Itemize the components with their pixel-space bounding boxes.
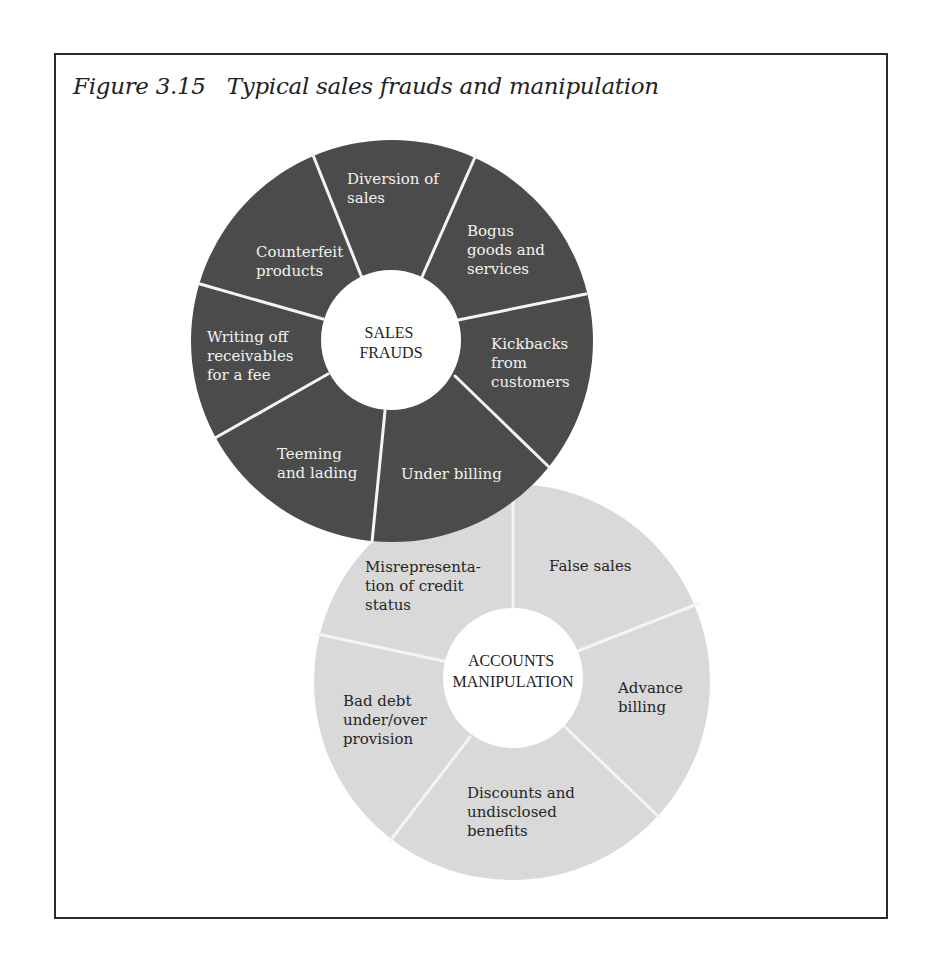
label-line: billing	[618, 698, 666, 716]
label-line: Teeming	[277, 445, 342, 463]
label-line: status	[365, 596, 411, 614]
label-line: Kickbacks	[491, 335, 568, 353]
accounts-manipulation-wheel: False sales Advance billing Discounts an…	[314, 484, 710, 880]
label-line: products	[256, 262, 323, 280]
hub-line: ACCOUNTS	[468, 652, 554, 669]
label-line: customers	[491, 373, 570, 391]
label-line: Discounts and	[467, 784, 575, 802]
label-line: Bad debt	[343, 692, 411, 710]
label-line: Under billing	[401, 465, 502, 483]
label-line: under/over	[343, 711, 427, 729]
label-line: receivables	[207, 347, 294, 365]
label-line: Diversion of	[347, 170, 440, 188]
label-line: benefits	[467, 822, 528, 840]
label-line: sales	[347, 189, 385, 207]
label-line: undisclosed	[467, 803, 557, 821]
label-line: Writing off	[207, 328, 290, 346]
hub-line: FRAUDS	[359, 344, 422, 361]
hub-line: SALES	[365, 324, 414, 341]
label-line: and lading	[277, 464, 358, 482]
label-line: provision	[343, 730, 414, 748]
hub-line: MANIPULATION	[453, 673, 574, 690]
fraud-diagram: False sales Advance billing Discounts an…	[0, 0, 937, 964]
label-line: False sales	[549, 557, 632, 575]
segment-under-billing: Under billing	[401, 465, 502, 483]
segment-teeming-lading: Teeming and lading	[277, 445, 358, 482]
label-line: Bogus	[467, 222, 514, 240]
label-line: goods and	[467, 241, 545, 259]
sales-frauds-wheel: Diversion of sales Bogus goods and servi…	[191, 140, 593, 542]
label-line: Advance	[617, 679, 683, 697]
label-line: tion of credit	[365, 577, 464, 595]
label-line: for a fee	[207, 366, 271, 384]
label-line: from	[491, 354, 527, 372]
segment-false-sales: False sales	[549, 557, 632, 575]
label-line: Counterfeit	[256, 243, 343, 261]
label-line: Misrepresenta-	[365, 558, 481, 576]
label-line: services	[467, 260, 529, 278]
